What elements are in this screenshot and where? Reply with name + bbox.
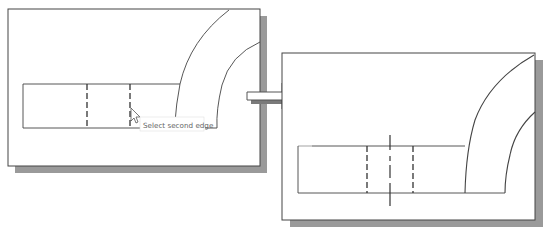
tooltip: Select second edge (140, 117, 214, 131)
after-panel (282, 53, 543, 227)
figure: Select second edge (0, 0, 550, 235)
panel-frame (282, 53, 535, 220)
before-panel: Select second edge (8, 9, 267, 173)
panel-frame (8, 9, 260, 166)
tooltip-text: Select second edge (143, 121, 214, 130)
